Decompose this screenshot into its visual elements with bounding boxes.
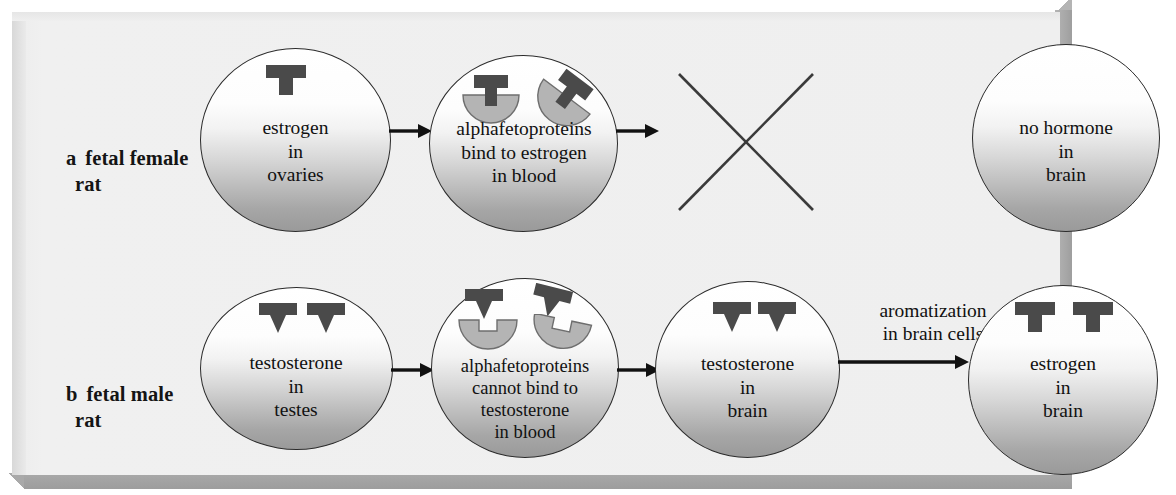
estrogen-t-shape-icon-b4-2 — [1071, 300, 1115, 334]
row-label-b: bfetal malerat — [45, 355, 173, 485]
arrow-a2-to-a3 — [616, 122, 660, 140]
alphafetoprotein-unbound-icon-2 — [527, 314, 593, 354]
testosterone-chevron-shape-icon-b2-1 — [463, 287, 505, 321]
figure-root: afetal femalerat estrogen in ovaries alp… — [0, 0, 1176, 495]
step-text-a1: estrogen in ovaries — [200, 116, 391, 187]
testosterone-chevron-shape-icon-b1-2 — [305, 301, 347, 335]
testosterone-chevron-shape-icon-b1-1 — [257, 301, 299, 335]
testosterone-chevron-shape-icon-b3-1 — [711, 300, 753, 334]
alphafetoprotein-unbound-icon-1 — [457, 318, 519, 354]
step-text-b1: testosterone in testes — [198, 351, 394, 422]
row-label-a-line1: fetal female — [85, 147, 188, 169]
estrogen-t-shape-icon — [264, 63, 308, 97]
panel-left-bevel — [12, 12, 26, 475]
row-letter-a: a — [66, 147, 76, 169]
blocked-x-icon — [675, 70, 817, 214]
estrogen-t-shape-icon-b4-1 — [1013, 300, 1057, 334]
row-label-b-line2: rat — [45, 407, 173, 433]
step-text-a4: no hormone in brain — [972, 116, 1160, 187]
arrow-b3-to-b4 — [838, 353, 970, 371]
step-text-b3: testosterone in brain — [653, 352, 842, 423]
panel-bottom-shadow — [24, 473, 1072, 489]
row-label-a-line2: rat — [45, 171, 188, 197]
step-text-b2: alphafetoproteins cannot bind to testost… — [428, 355, 622, 443]
row-letter-b: b — [66, 383, 78, 405]
testosterone-chevron-shape-icon-b3-2 — [756, 300, 798, 334]
step-text-a2: alphafetoproteins bind to estrogen in bl… — [426, 117, 622, 188]
panel-top-bevel — [12, 12, 1060, 21]
row-label-b-line1: fetal male — [86, 383, 173, 405]
row-label-a: afetal femalerat — [45, 119, 188, 249]
step-text-b4: estrogen in brain — [968, 352, 1158, 423]
